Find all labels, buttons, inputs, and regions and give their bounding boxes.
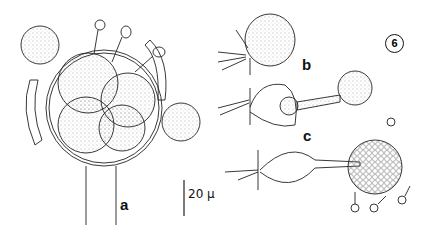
panel-label-c: c — [303, 127, 311, 144]
figure-number: 6 — [385, 34, 404, 53]
panel-label-a: a — [120, 196, 128, 213]
scale-bar-label: 20 µ — [188, 187, 215, 201]
panel-a-drawing — [21, 20, 200, 225]
panel-b-drawing — [218, 14, 295, 75]
panel-c-upper-drawing — [218, 71, 372, 126]
illustration — [0, 0, 435, 240]
panel-label-b: b — [302, 56, 311, 73]
panel-c-lower-drawing — [225, 118, 410, 212]
